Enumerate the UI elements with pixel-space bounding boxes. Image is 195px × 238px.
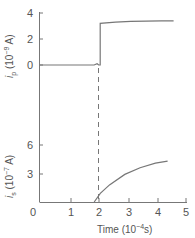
top-y-axis-label: ip (10−9 A): [3, 34, 18, 78]
tick-x-3: 3: [126, 206, 132, 218]
ip-series-line: [39, 21, 174, 65]
x-axis-label: Time (10−4s): [97, 223, 152, 235]
tick-x-4: 4: [155, 206, 161, 218]
bottom-y-ticks: 6 3: [27, 139, 43, 180]
bottom-y-axis-label: is (10−7 A): [3, 155, 17, 198]
figure: 4 2 0 6 3 0 1 2 3 4 5 Time (10−4s) ip (1…: [0, 0, 195, 238]
tick-x-5: 5: [183, 206, 189, 218]
tick-bottom-6: 6: [27, 139, 33, 151]
tick-top-0: 0: [27, 59, 33, 71]
x-ticks: 0 1 2 3 4 5: [30, 198, 189, 218]
tick-bottom-3: 3: [27, 168, 33, 180]
tick-x-0: 0: [30, 206, 36, 218]
is-series-line: [94, 161, 167, 202]
tick-x-1: 1: [68, 206, 74, 218]
top-y-ticks: 4 2 0: [27, 7, 43, 71]
tick-top-2: 2: [27, 33, 33, 45]
tick-top-4: 4: [27, 7, 33, 19]
tick-x-2: 2: [96, 206, 102, 218]
